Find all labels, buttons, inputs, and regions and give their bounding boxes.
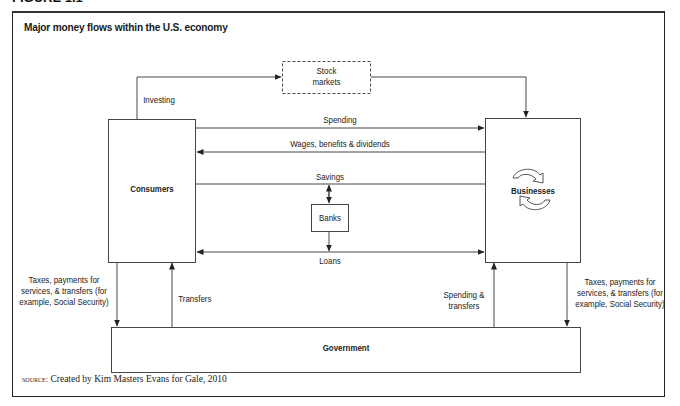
transfers-label: Transfers — [178, 294, 211, 304]
government-label: Government — [139, 343, 553, 354]
source-note: source: Created by Kim Masters Evans for… — [22, 374, 227, 384]
spending-transfers-label: Spending & transfers — [439, 290, 488, 312]
savings-label: Savings — [304, 172, 357, 182]
stock-markets-label: Stock markets — [287, 66, 365, 88]
investing-label: Investing — [143, 95, 175, 105]
wages-label: Wages, benefits & dividends — [278, 139, 401, 149]
consumers-label: Consumers — [113, 184, 190, 195]
businesses-label: Businesses — [491, 186, 575, 197]
taxes-left-label: Taxes, payments for services, & transfer… — [18, 275, 110, 308]
loans-label: Loans — [304, 256, 357, 266]
spending-label: Spending — [305, 115, 375, 125]
banks-label: Banks — [313, 213, 346, 224]
stock-to-business-arrow — [371, 77, 526, 117]
taxes-right-label: Taxes, payments for services, & transfer… — [574, 277, 666, 310]
source-prefix: source: — [22, 374, 48, 384]
source-text: Created by Kim Masters Evans for Gale, 2… — [50, 374, 226, 384]
